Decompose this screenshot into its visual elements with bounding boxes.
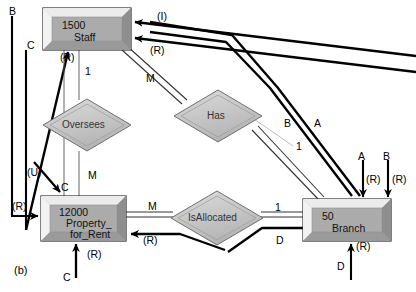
arrow-a-path [150,22,360,196]
connector-property-isallocated [126,212,173,217]
figure-caption: (b) [14,264,27,276]
operation-label: (R) [87,249,102,260]
arrow-read-to-staff [135,38,416,72]
operation-label: (R) [12,201,27,212]
operation-label: C [63,272,71,283]
operation-label: B [383,151,390,162]
operation-label: A [358,151,365,162]
relationship-oversees-label: Oversees [62,120,105,130]
cardinality-label: M [146,73,155,84]
er-diagram-figure: 1500 Staff 12000 Property_ for_Rent 50 B… [0,0,416,292]
operation-label: (R) [150,45,165,56]
entity-branch-count: 50 [322,210,334,222]
operation-label: (R) [143,235,158,246]
operation-label: B [284,118,291,129]
operation-label: (R) [356,241,371,252]
diagram-vector-layer [0,0,416,292]
operation-label: D [337,261,345,272]
operation-label: (R) [392,174,407,185]
connector-has-branch [252,126,324,199]
operation-label: D [276,235,284,246]
entity-property-name-line2: for_Rent [70,228,110,240]
cardinality-label: 1 [296,141,302,152]
entity-branch-name: Branch [332,222,365,234]
cardinality-label: M [88,170,97,181]
operation-label: (U) [27,167,42,178]
operation-label: B [9,6,16,17]
entity-branch[interactable] [303,199,391,241]
operation-label: C [61,182,69,193]
operation-label: (R) [60,52,75,63]
operation-label: C [27,40,35,51]
relationship-isallocated-label: IsAllocated [188,213,237,223]
cardinality-label: 1 [275,202,281,213]
cardinality-label: M [148,201,157,212]
entity-staff-name: Staff [74,31,95,43]
relationship-has-label: Has [207,111,225,121]
operation-label: (I) [157,11,167,22]
cardinality-label: 1 [85,66,91,77]
entity-staff-count: 1500 [62,19,85,31]
operation-label: A [314,118,321,129]
operation-label: (R) [366,174,381,185]
connector-isallocated-branch [261,212,303,217]
entity-staff[interactable] [43,8,131,50]
